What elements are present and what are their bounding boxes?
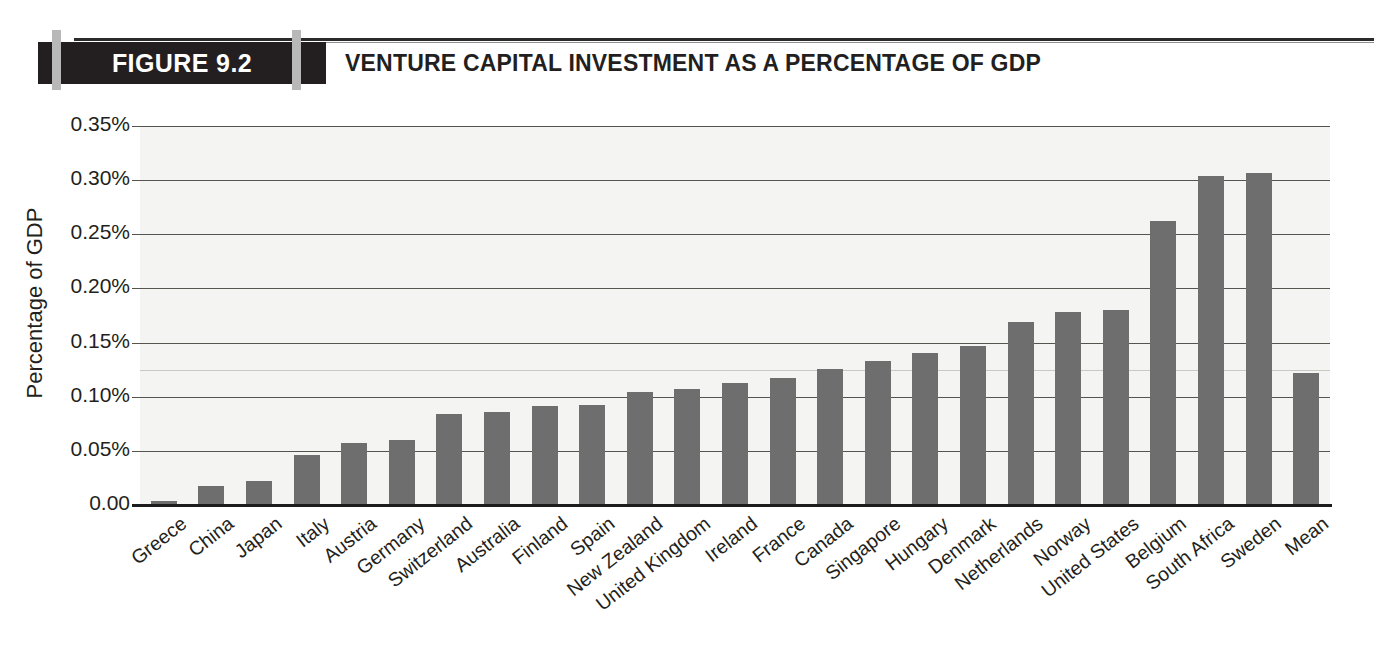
x-axis-tick-label-holder: Australia — [509, 512, 510, 513]
x-axis-tick-label-holder: Japan — [271, 512, 272, 513]
x-axis-tick-label: Japan — [230, 512, 286, 563]
x-axis-tick-label-holder: South Africa — [1223, 512, 1224, 513]
x-axis-tick-label-holder: Spain — [604, 512, 605, 513]
x-axis-tick-label-holder: Norway — [1080, 512, 1081, 513]
x-axis-tick-labels: GreeceChinaJapanItalyAustriaGermanySwitz… — [0, 0, 1398, 658]
x-axis-tick-label-holder: Mean — [1318, 512, 1319, 513]
bar-chart: 0.35%0.30%0.25%0.20%0.15%0.10%0.05%0.00 … — [0, 0, 1398, 658]
x-axis-tick-label: Ireland — [701, 512, 762, 567]
x-axis-tick-label-holder: Italy — [319, 512, 320, 513]
x-axis-tick-label-holder: United Kingdom — [699, 512, 700, 513]
x-axis-tick-label-holder: Ireland — [747, 512, 748, 513]
x-axis-tick-label: Greece — [126, 512, 191, 569]
x-axis-tick-label-holder: Germany — [414, 512, 415, 513]
x-axis-tick-label-holder: Singapore — [890, 512, 891, 513]
x-axis-tick-label-holder: France — [795, 512, 796, 513]
x-axis-tick-label-holder: Sweden — [1271, 512, 1272, 513]
x-axis-tick-label-holder: Canada — [842, 512, 843, 513]
x-axis-tick-label: China — [184, 512, 238, 561]
x-axis-tick-label-holder: New Zealand — [652, 512, 653, 513]
x-axis-tick-label: Mean — [1281, 512, 1334, 560]
x-axis-tick-label-holder: United States — [1128, 512, 1129, 513]
x-axis-tick-label-holder: Greece — [176, 512, 177, 513]
x-axis-tick-label-holder: China — [223, 512, 224, 513]
x-axis-tick-label-holder: Finland — [557, 512, 558, 513]
x-axis-tick-label-holder: Denmark — [985, 512, 986, 513]
x-axis-tick-label-holder: Austria — [366, 512, 367, 513]
x-axis-tick-label-holder: Belgium — [1175, 512, 1176, 513]
x-axis-tick-label-holder: Netherlands — [1033, 512, 1034, 513]
x-axis-tick-label-holder: Hungary — [937, 512, 938, 513]
x-axis-tick-label-holder: Switzerland — [461, 512, 462, 513]
